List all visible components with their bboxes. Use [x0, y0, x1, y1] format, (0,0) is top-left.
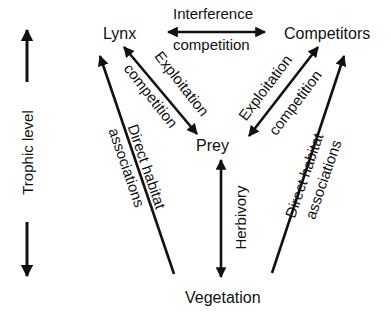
- herbivory-label: Herbivory: [233, 178, 248, 258]
- node-lynx: Lynx: [103, 26, 136, 42]
- node-prey: Prey: [196, 138, 229, 154]
- interference-label-line2: competition: [173, 37, 250, 52]
- trophic-level-label: Trophic level: [20, 103, 35, 203]
- node-vegetation: Vegetation: [185, 290, 261, 306]
- node-competitors: Competitors: [284, 26, 370, 42]
- interference-label-line1: Interference: [173, 6, 253, 21]
